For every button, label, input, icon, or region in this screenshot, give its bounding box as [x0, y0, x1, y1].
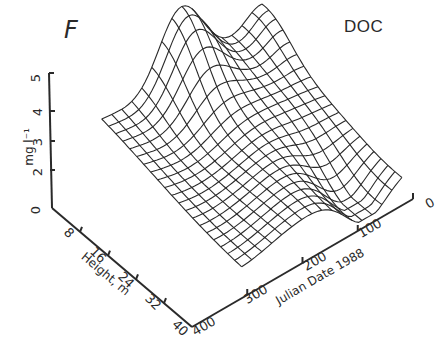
date-tick-label: 400 [189, 313, 218, 338]
surface-plot: 02345mg l⁻¹816243240Height, m01002003004… [0, 0, 443, 341]
z-tick-label: 0 [28, 206, 43, 214]
height-tick-label: 8 [61, 225, 77, 241]
axes [49, 73, 413, 327]
z-tick-label: 5 [28, 74, 43, 82]
panel-letter: F [64, 16, 78, 44]
z-axis-label: mg l⁻¹ [22, 128, 36, 166]
date-tick-label: 0 [422, 195, 437, 212]
z-tick-label: 4 [30, 108, 45, 116]
height-tick-label: 32 [142, 291, 164, 313]
chart-title: DOC [344, 17, 383, 37]
z-tick-label: 2 [30, 168, 45, 176]
chart-container: 02345mg l⁻¹816243240Height, m01002003004… [0, 0, 443, 341]
height-tick-label: 40 [169, 317, 191, 339]
